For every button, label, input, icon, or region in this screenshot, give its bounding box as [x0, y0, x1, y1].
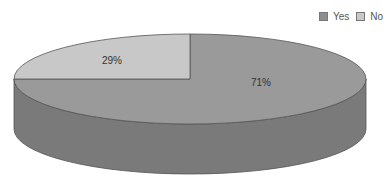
legend-swatch-yes	[319, 12, 328, 21]
legend-label-no: No	[370, 11, 383, 22]
slice-label-no: 29%	[102, 55, 122, 66]
legend-label-yes: Yes	[333, 11, 349, 22]
legend-item-yes[interactable]: Yes	[319, 11, 349, 22]
chart-legend: Yes No	[319, 11, 388, 22]
legend-swatch-no	[356, 12, 365, 21]
slice-label-yes: 71%	[251, 77, 271, 88]
legend-item-no[interactable]: No	[356, 11, 383, 22]
